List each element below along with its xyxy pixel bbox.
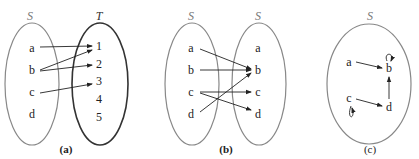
element-1: 1 [96, 39, 102, 53]
arrows-a [40, 46, 92, 93]
set-label-s-right: S [255, 9, 261, 23]
element-a: a [255, 41, 261, 55]
panel-b: S S a b c d a b c d (b) [165, 9, 286, 156]
element-b: b [188, 63, 194, 77]
set-ellipse [327, 24, 411, 144]
relation-diagrams: S T a b c d 1 2 3 4 5 (a) S S a b c d a … [0, 0, 419, 159]
element-a: a [188, 41, 194, 55]
set-label-s-left: S [188, 9, 194, 23]
caption-b: (b) [219, 143, 233, 156]
element-5: 5 [96, 110, 102, 124]
caption-a: (a) [60, 143, 73, 156]
element-d: d [255, 107, 261, 121]
element-a: a [29, 41, 35, 55]
element-c: c [188, 85, 193, 99]
element-a: a [346, 55, 352, 69]
set-label-t: T [96, 9, 104, 23]
element-c: c [255, 85, 260, 99]
caption-c: (c) [364, 143, 377, 156]
element-c: c [29, 85, 34, 99]
arrows-b [200, 49, 251, 112]
element-c: c [346, 91, 351, 105]
element-2: 2 [96, 57, 102, 71]
element-4: 4 [96, 92, 102, 106]
element-b: b [386, 61, 392, 75]
panel-a: S T a b c d 1 2 3 4 5 (a) [5, 9, 128, 156]
element-b: b [29, 63, 35, 77]
set-label-s: S [367, 9, 373, 23]
element-d: d [188, 107, 194, 121]
element-d: d [29, 107, 35, 121]
set-label-s: S [27, 9, 33, 23]
panel-c: S a b c d (c) [327, 9, 411, 156]
element-d: d [386, 100, 392, 114]
element-b: b [255, 63, 261, 77]
element-3: 3 [96, 74, 102, 88]
